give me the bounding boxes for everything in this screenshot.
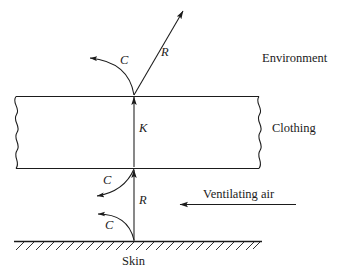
symbol-c-skin: C (105, 219, 113, 232)
symbol-r-environment: R (161, 46, 169, 59)
environment-label: Environment (262, 52, 327, 65)
skin-label: Skin (122, 255, 145, 268)
clothing-label: Clothing (272, 122, 316, 135)
skin-surface (14, 241, 262, 250)
diagram-canvas (0, 0, 344, 274)
radiation-environment-arrow (134, 11, 183, 95)
clothing-layer-shape (15, 97, 262, 169)
symbol-k-conduction: K (139, 122, 147, 135)
heat-transfer-diagram: Environment Clothing Skin Ventilating ai… (0, 0, 344, 274)
clothing-right-wavy-edge (258, 97, 262, 169)
skin-hatching (16, 241, 261, 250)
ventilating-air-label: Ventilating air (203, 188, 274, 201)
convection-skin-arrow (98, 214, 134, 240)
clothing-left-wavy-edge (15, 97, 19, 169)
symbol-c-clothing-inner: C (103, 174, 111, 187)
symbol-r-skin: R (139, 194, 147, 207)
symbol-c-environment: C (120, 54, 128, 67)
